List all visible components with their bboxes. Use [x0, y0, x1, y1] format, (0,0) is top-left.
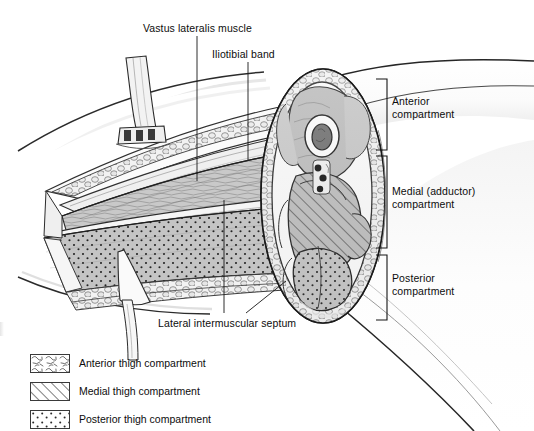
- anterior-compartment-line2: compartment: [392, 108, 454, 120]
- label-lateral-intermuscular-septum: Lateral intermuscular septum: [158, 317, 296, 330]
- label-iliotibial-band: Iliotibial band: [212, 48, 275, 61]
- legend-label-medial-thigh-compartment: Medial thigh compartment: [79, 385, 200, 397]
- label-medial-adductor-compartment: Medial (adductor) compartment: [392, 185, 502, 211]
- posterior-compartment-line1: Posterior: [392, 272, 435, 284]
- legend-label-posterior-thigh-compartment: Posterior thigh compartment: [79, 413, 211, 425]
- medial-compartment-line2: compartment: [392, 198, 454, 210]
- swatch-medial-thigh-compartment: [30, 382, 70, 401]
- anatomical-figure: Vastus lateralis muscle Iliotibial band …: [0, 0, 534, 431]
- legend-row-anterior: Anterior thigh compartment: [30, 352, 330, 374]
- thigh-cross-section: [261, 69, 386, 323]
- legend: Anterior thigh compartment Medial thigh …: [30, 352, 330, 431]
- medial-compartment-line1: Medial (adductor): [392, 185, 475, 197]
- posterior-compartment-line2: compartment: [392, 285, 454, 297]
- swatch-posterior-thigh-compartment: [30, 410, 70, 429]
- label-anterior-compartment: Anterior compartment: [392, 95, 502, 121]
- page-edge-artifact: [0, 322, 4, 336]
- legend-row-posterior: Posterior thigh compartment: [30, 408, 330, 430]
- legend-row-medial: Medial thigh compartment: [30, 380, 330, 402]
- anterior-compartment-line1: Anterior: [392, 95, 430, 107]
- label-vastus-lateralis-muscle: Vastus lateralis muscle: [143, 22, 252, 35]
- legend-label-anterior-thigh-compartment: Anterior thigh compartment: [79, 357, 206, 369]
- swatch-anterior-thigh-compartment: [30, 354, 70, 373]
- label-posterior-compartment: Posterior compartment: [392, 272, 502, 298]
